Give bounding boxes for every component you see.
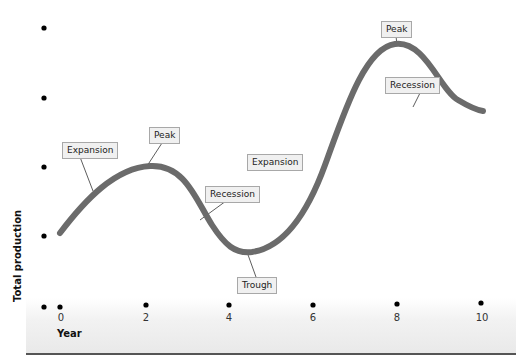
- label-peak-2: Peak: [381, 21, 412, 38]
- plot-area: [0, 0, 516, 356]
- x-tick-6: 6: [310, 312, 316, 323]
- label-trough: Trough: [237, 277, 277, 294]
- label-expansion-1: Expansion: [62, 142, 118, 159]
- x-axis-label: Year: [57, 328, 82, 339]
- x-axis-dots: [57, 300, 483, 309]
- business-cycle-curve: [60, 44, 483, 252]
- x-tick-0: 0: [58, 312, 64, 323]
- y-axis-dots: [41, 25, 46, 309]
- x-tick-8: 8: [394, 312, 400, 323]
- label-recession-2: Recession: [385, 77, 440, 94]
- x-tick-2: 2: [143, 312, 149, 323]
- x-tick-10: 10: [476, 312, 489, 323]
- x-tick-4: 4: [226, 312, 232, 323]
- label-peak-1: Peak: [149, 127, 180, 144]
- label-recession-1: Recession: [205, 186, 260, 203]
- label-expansion-2: Expansion: [247, 154, 303, 171]
